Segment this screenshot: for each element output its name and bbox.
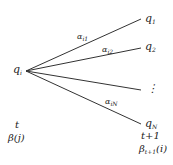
left-time-label: t [15,120,19,130]
target-node-q1: q1 [145,13,156,25]
edge-label-alpha-i1: αi1 [77,33,88,42]
left-beta-label: β(j) [8,133,25,143]
trellis-diagram: qi q1 q2 ⋮ qN αi1 αi2 αiN t β(j) t+1 βt+… [0,0,173,165]
edge-to-q2 [26,48,141,71]
edge-to-q1 [26,19,141,71]
edge-to-ellipsis [26,71,141,90]
right-beta-label: βt+1(i) [139,144,167,155]
target-ellipsis: ⋮ [147,83,158,94]
edge-label-alpha-iN: αiN [105,98,118,107]
source-node-label: qi [13,64,22,76]
edge-to-qN [26,71,141,124]
target-node-qN: qN [145,118,157,130]
edge-label-alpha-i2: αi2 [102,46,113,55]
right-time-label: t+1 [141,131,160,141]
target-node-q2: q2 [145,41,156,53]
